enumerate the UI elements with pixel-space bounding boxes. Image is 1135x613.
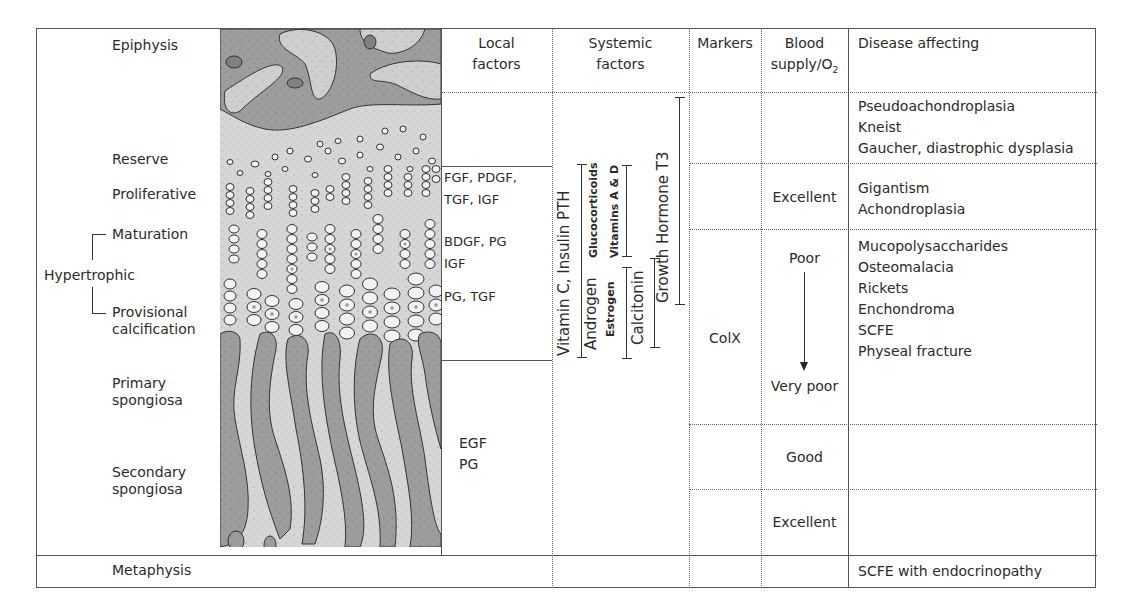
hypertrophic-bracket-top [92, 234, 106, 235]
systemic-vitamins-a-d: Vitamins A & D [607, 165, 623, 258]
header-blood-supply: Blood supply/O2 [761, 35, 848, 79]
zone-proliferative: Proliferative [112, 186, 196, 203]
diseases-proliferative: Gigantism Achondroplasia [858, 180, 965, 218]
systemic-androgen: Androgen [583, 277, 600, 350]
zone-hypertrophic: Hypertrophic [44, 267, 135, 284]
header-divider [441, 92, 1097, 93]
zone-maturation: Maturation [112, 226, 188, 243]
local-factors-spongiosa: EGF PG [459, 435, 487, 473]
col-sep-local-systemic [552, 28, 553, 588]
marker-colx: ColX [689, 330, 761, 347]
diseases-metaphysis: SCFE with endocrinopathy [858, 563, 1042, 580]
col-sep-systemic-markers [689, 28, 690, 588]
systemic-estrogen: Estrogen [603, 282, 619, 337]
hypertrophic-bracket-upper [92, 234, 93, 260]
blood-supply-proliferative: Excellent [761, 189, 848, 206]
zone-epiphysis: Epiphysis [112, 37, 178, 54]
row-line-proliferative [689, 229, 1097, 230]
systemic-glucocorticoids: Glucocorticoids [586, 162, 602, 258]
growth-plate-illustration [220, 29, 441, 555]
metaphysis-divider [36, 555, 1097, 556]
zone-primary-spongiosa: Primary spongiosa [112, 375, 183, 409]
col-sep-blood-disease [848, 28, 849, 588]
row-line-hypertrophic [689, 424, 1097, 425]
systemic-calcitonin: Calcitonin [630, 271, 647, 346]
diseases-hypertrophic: Mucopolysaccharides Osteomalacia Rickets… [858, 238, 1008, 360]
local-factors-maturation: BDGF, PG IGF [444, 234, 507, 272]
bracket-estrogen [626, 267, 627, 359]
zone-metaphysis: Metaphysis [112, 562, 191, 579]
row-line-primary [689, 489, 1097, 490]
col-sep-markers-blood [761, 28, 762, 588]
blood-supply-poor: Poor [761, 250, 848, 267]
blood-supply-very-poor: Very poor [761, 378, 848, 395]
local-factors-proliferative: FGF, PDGF, TGF, IGF [444, 170, 517, 208]
arrow-down-icon [800, 362, 808, 371]
arrow-down-shaft [804, 272, 805, 364]
local-row-line-1 [441, 166, 552, 167]
diseases-reserve: Pseudoachondroplasia Kneist Gaucher, dia… [858, 98, 1074, 157]
header-systemic-factors: Systemic factors [552, 35, 689, 73]
local-row-line-2 [441, 360, 552, 361]
zone-provisional-calcification: Provisional calcification [112, 304, 196, 338]
zone-reserve: Reserve [112, 151, 168, 168]
systemic-growth-hormone-t3: Growth Hormone T3 [655, 152, 672, 303]
hypertrophic-bracket-bottom [92, 313, 106, 314]
systemic-vitamin-c-insulin-pth: Vitamin C, Insulin PTH [556, 190, 573, 356]
bracket-vitamins-a-d [626, 165, 627, 257]
local-factors-calcification: PG, TGF [444, 289, 496, 305]
hypertrophic-bracket-lower [92, 287, 93, 313]
header-disease-affecting: Disease affecting [858, 35, 979, 52]
illustration-right-border [441, 28, 442, 555]
blood-supply-excellent: Excellent [761, 514, 848, 531]
header-local-factors: Local factors [441, 35, 552, 73]
zone-secondary-spongiosa: Secondary spongiosa [112, 464, 186, 498]
row-line-reserve [689, 163, 1097, 164]
bracket-growth-hormone [679, 97, 680, 305]
header-markers: Markers [689, 35, 761, 52]
blood-supply-good: Good [761, 449, 848, 466]
